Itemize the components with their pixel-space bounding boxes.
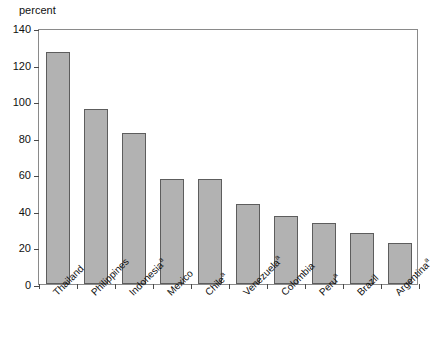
- x-tick-mark: [153, 284, 154, 289]
- y-tick-label: 60: [19, 169, 31, 182]
- x-tick-mark: [39, 284, 40, 289]
- y-tick-label: 40: [19, 206, 31, 219]
- x-tick-mark: [191, 284, 192, 289]
- y-tick-label: 120: [13, 60, 31, 73]
- y-tick-label: 80: [19, 133, 31, 146]
- x-tick-mark: [419, 284, 420, 289]
- bars-layer: [39, 30, 417, 284]
- x-tick-mark: [305, 284, 306, 289]
- bar-chart: percent 020406080100120140 ThailandPhili…: [0, 0, 432, 345]
- bar: [46, 52, 70, 284]
- x-tick-mark: [381, 284, 382, 289]
- y-tick-label: 140: [13, 23, 31, 36]
- bar: [236, 204, 260, 284]
- x-tick-mark: [343, 284, 344, 289]
- x-tick-mark: [267, 284, 268, 289]
- x-tick-mark: [115, 284, 116, 289]
- y-axis-unit-label: percent: [19, 4, 56, 17]
- bar: [198, 179, 222, 284]
- x-axis-labels: ThailandPhilippinesIndonesiaaMexicoChile…: [0, 290, 432, 345]
- plot-area: 020406080100120140: [38, 29, 418, 285]
- x-tick-mark: [77, 284, 78, 289]
- x-tick-mark: [229, 284, 230, 289]
- bar: [84, 109, 108, 284]
- y-tick-label: 100: [13, 96, 31, 109]
- y-tick-label: 20: [19, 242, 31, 255]
